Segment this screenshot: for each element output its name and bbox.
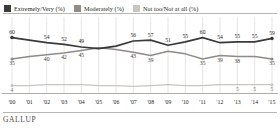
data-label: 55	[235, 33, 241, 39]
x-axis-tick-label: '04	[78, 99, 85, 105]
data-label: 54	[217, 34, 223, 40]
legend-swatch-icon	[74, 5, 81, 12]
x-axis-tick-label: '07	[130, 99, 137, 105]
gallup-line-chart: Extremely/Very (%) Moderately (%) Not to…	[0, 0, 280, 128]
legend-item-not-too-not-at-all[interactable]: Not too/Not at all (%)	[133, 5, 198, 12]
data-label: 51	[165, 37, 171, 43]
data-label: 35	[200, 60, 206, 66]
legend-item-moderately[interactable]: Moderately (%)	[74, 5, 124, 12]
x-axis-tick-label: '09	[165, 99, 172, 105]
data-label: 4	[11, 87, 14, 93]
data-label: 35	[269, 60, 275, 66]
data-label: 39	[148, 57, 154, 63]
chart-plot-area: 6054524956575155605455555935404245433935…	[0, 15, 280, 97]
data-label: 52	[61, 36, 67, 42]
x-axis-tick-label: '08	[147, 99, 154, 105]
x-axis-tick-label: '00	[9, 99, 16, 105]
data-label: 45	[79, 52, 85, 58]
data-label: 5	[253, 86, 256, 92]
data-label: 43	[131, 53, 137, 59]
legend-item-label: Moderately (%)	[84, 5, 124, 12]
x-axis-tick-label: '02	[43, 99, 50, 105]
x-axis-svg: '00'01'02'03'04'05'06'07'08'09'10'11'12'…	[0, 97, 280, 109]
legend-item-extremely-very[interactable]: Extremely/Very (%)	[4, 5, 65, 12]
data-label: 60	[200, 29, 206, 35]
legend-item-label: Not too/Not at all (%)	[143, 5, 198, 12]
x-axis-tick-label: '12	[217, 99, 224, 105]
data-label: 35	[9, 60, 15, 66]
data-label: 55	[183, 33, 189, 39]
x-axis-tick-label: '05	[95, 99, 102, 105]
x-axis-tick-label: '06	[113, 99, 120, 105]
data-label: 60	[9, 29, 15, 35]
data-label: 54	[44, 34, 50, 40]
legend-divider	[3, 13, 277, 14]
data-label: 39	[217, 57, 223, 63]
data-label: 5	[271, 86, 274, 92]
x-axis-tick-label: '10	[182, 99, 189, 105]
gallup-brand-logo: GALLUP	[3, 115, 277, 124]
x-axis-tick-label: '13	[234, 99, 241, 105]
x-axis-tick-label: '01	[26, 99, 33, 105]
x-axis-tick-label: '03	[61, 99, 68, 105]
legend-swatch-icon	[133, 5, 140, 12]
plot-svg: 6054524956575155605455555935404245433935…	[0, 15, 280, 97]
x-axis-tick-label: '14	[251, 99, 258, 105]
legend-swatch-icon	[4, 5, 11, 12]
data-label: 57	[148, 32, 154, 38]
data-label: 42	[61, 54, 67, 60]
legend-item-label: Extremely/Very (%)	[14, 5, 65, 12]
data-label: 59	[269, 30, 275, 36]
data-label: 38	[235, 58, 241, 64]
data-label: 5	[236, 86, 239, 92]
chart-footer: GALLUP	[3, 112, 277, 124]
data-label: 55	[252, 33, 258, 39]
data-label: 56	[131, 32, 137, 38]
x-axis-tick-label: '11	[199, 99, 206, 105]
x-axis-tick-label: '15	[269, 99, 276, 105]
data-label: 49	[79, 38, 85, 44]
data-label: 40	[44, 56, 50, 62]
footer-divider	[3, 112, 277, 113]
chart-x-axis: '00'01'02'03'04'05'06'07'08'09'10'11'12'…	[0, 97, 280, 109]
